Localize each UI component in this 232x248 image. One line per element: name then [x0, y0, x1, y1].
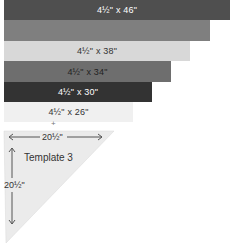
template-triangle: [0, 0, 232, 248]
width-label: 20½": [42, 132, 63, 142]
template-title: Template 3: [24, 152, 73, 163]
height-label: 20½": [4, 180, 25, 190]
